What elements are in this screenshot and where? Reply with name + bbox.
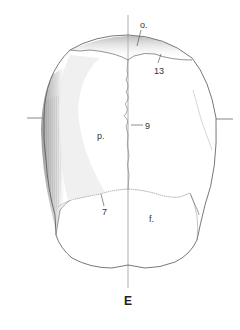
label-7: 7 [102,207,107,217]
coronal-right-end [190,193,199,215]
occipital-shading [70,36,192,60]
inner-shading [58,55,105,200]
label-p: p. [97,131,105,141]
right-lower-contour [191,195,198,240]
leader-7 [101,194,104,206]
label-9: 9 [145,121,150,131]
figure-panel-label: E [124,294,132,308]
label-o: o. [140,20,148,30]
label-13: 13 [154,66,164,76]
label-f: f. [149,214,154,224]
right-inner-contour [193,90,212,150]
skull-illustration: o. 13 9 p. 7 f. E [0,0,240,330]
